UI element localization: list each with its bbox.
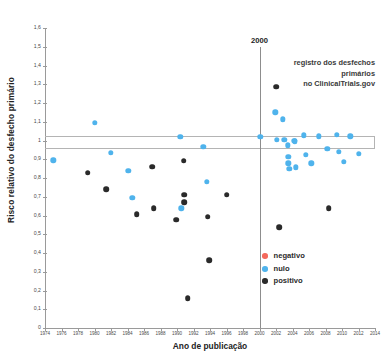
y-tick	[43, 28, 47, 29]
data-point-positivo	[182, 199, 188, 205]
y-tick-label: 1,3	[34, 82, 41, 87]
x-tick-label: 1988	[155, 332, 165, 337]
y-tick-label: 1,4	[34, 63, 41, 68]
data-point-nulo	[309, 161, 314, 166]
data-point-nulo	[126, 168, 131, 173]
legend-label: nulo	[274, 265, 290, 273]
legend-label: negativo	[274, 252, 305, 260]
registry-annotation-line1: registro dos desfechos primários	[266, 58, 376, 79]
data-point-nulo	[51, 157, 56, 162]
year-2000-marker-line	[260, 47, 261, 328]
y-tick	[43, 159, 47, 160]
x-tick-label: 2008	[320, 332, 330, 337]
x-tick-label: 1996	[221, 332, 231, 337]
data-point-positivo	[277, 225, 283, 231]
y-tick	[43, 272, 47, 273]
data-point-nulo	[286, 161, 291, 166]
x-tick-label: 2002	[271, 332, 281, 337]
y-axis-title: Risco relativo do desfecho primário	[4, 0, 18, 300]
y-axis-title-text: Risco relativo do desfecho primário	[6, 77, 16, 223]
x-tick-label: 1980	[89, 332, 99, 337]
data-point-nulo	[130, 195, 135, 200]
y-tick-label: 0	[38, 325, 41, 330]
y-tick-label: 0,1	[34, 307, 41, 312]
x-tick-label: 1984	[122, 332, 132, 337]
y-tick	[43, 216, 47, 217]
data-point-nulo	[336, 149, 341, 154]
data-point-positivo	[103, 186, 109, 192]
x-tick-label: 2014	[370, 332, 380, 337]
y-tick-label: 0,2	[34, 288, 41, 293]
data-point-nulo	[341, 159, 346, 164]
legend-label: positivo	[274, 277, 303, 285]
data-point-positivo	[134, 211, 140, 217]
x-axis-title: Ano de publicação	[45, 341, 375, 351]
y-tick-label: 0,6	[34, 213, 41, 218]
y-tick	[43, 253, 47, 254]
y-tick-label: 1,1	[34, 119, 41, 124]
legend: negativonulopositivo	[262, 250, 305, 288]
legend-item-nulo[interactable]: nulo	[262, 263, 305, 276]
y-tick	[43, 122, 47, 123]
y-tick-label: 0,7	[34, 194, 41, 199]
data-point-nulo	[286, 166, 291, 171]
y-tick	[43, 234, 47, 235]
scatter-chart: Risco relativo do desfecho primário 00,1…	[0, 0, 386, 361]
data-point-nulo	[92, 120, 97, 125]
data-point-nulo	[324, 146, 329, 151]
y-tick	[43, 47, 47, 48]
data-point-positivo	[206, 257, 212, 263]
data-point-positivo	[149, 164, 155, 170]
x-tick-label: 1986	[139, 332, 149, 337]
data-point-nulo	[356, 151, 361, 156]
data-point-nulo	[178, 206, 183, 211]
registry-annotation-line2: no ClinicalTrials.gov	[266, 79, 376, 90]
data-point-nulo	[280, 117, 285, 122]
data-point-positivo	[326, 205, 332, 211]
y-tick-label: 0,9	[34, 157, 41, 162]
x-tick-label: 2006	[304, 332, 314, 337]
data-point-positivo	[224, 192, 230, 198]
y-tick	[43, 84, 47, 85]
data-point-nulo	[303, 152, 308, 157]
data-point-positivo	[182, 192, 188, 198]
x-tick-label: 1992	[188, 332, 198, 337]
data-point-positivo	[181, 158, 187, 164]
x-tick-label: 1976	[56, 332, 66, 337]
data-point-nulo	[108, 150, 113, 155]
x-tick-label: 1974	[40, 332, 50, 337]
data-point-nulo	[204, 179, 209, 184]
data-point-positivo	[185, 296, 191, 302]
y-tick	[43, 309, 47, 310]
legend-item-positivo[interactable]: positivo	[262, 275, 305, 288]
y-tick	[43, 178, 47, 179]
y-tick	[43, 66, 47, 67]
y-tick-label: 1	[38, 138, 41, 143]
y-tick-label: 0,3	[34, 269, 41, 274]
x-tick-label: 2012	[353, 332, 363, 337]
y-tick-label: 1,6	[34, 25, 41, 30]
legend-swatch-nulo-icon	[262, 266, 268, 272]
y-tick	[43, 291, 47, 292]
data-point-nulo	[293, 165, 298, 170]
legend-swatch-positivo-icon	[262, 278, 268, 284]
x-tick-label: 2000	[254, 332, 264, 337]
y-tick-label: 0,5	[34, 232, 41, 237]
y-tick	[43, 197, 47, 198]
legend-item-negativo[interactable]: negativo	[262, 250, 305, 263]
y-tick-label: 0,4	[34, 250, 41, 255]
data-point-positivo	[151, 206, 157, 212]
x-tick-label: 1982	[106, 332, 116, 337]
registry-annotation: registro dos desfechos primários no Clin…	[266, 58, 376, 90]
y-tick	[43, 103, 47, 104]
x-tick-label: 2004	[287, 332, 297, 337]
y-tick-label: 1,2	[34, 100, 41, 105]
y-tick-label: 0,8	[34, 175, 41, 180]
x-tick-label: 1998	[238, 332, 248, 337]
x-tick-label: 1990	[172, 332, 182, 337]
x-tick-label: 1978	[73, 332, 83, 337]
y-tick-label: 1,5	[34, 44, 41, 49]
legend-swatch-negativo-icon	[262, 253, 268, 259]
x-tick-label: 2010	[337, 332, 347, 337]
data-point-positivo	[85, 170, 91, 176]
